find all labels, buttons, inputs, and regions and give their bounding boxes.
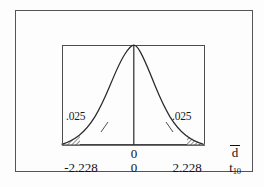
negative-critical-value-label: -2.228 <box>52 160 110 176</box>
left-tail-leader-line <box>101 122 108 132</box>
left-tail-area-label: .025 <box>66 110 85 122</box>
t-axis-name-subscript: 10 <box>233 166 241 176</box>
dbar-axis-name: d <box>218 144 252 160</box>
right-tail-leader-line <box>166 122 173 132</box>
t-distribution-figure: .025 .025 0 -2.228 0 2.228 d t10 <box>0 0 264 187</box>
positive-critical-value-label: 2.228 <box>160 160 214 176</box>
axis-name-stack: d t10 <box>218 144 252 176</box>
t-axis-name: t10 <box>218 161 252 176</box>
t-axis-zero-label: 0 <box>120 160 148 176</box>
bell-curve-path <box>62 45 203 144</box>
right-tail-area-label: .025 <box>172 110 191 122</box>
